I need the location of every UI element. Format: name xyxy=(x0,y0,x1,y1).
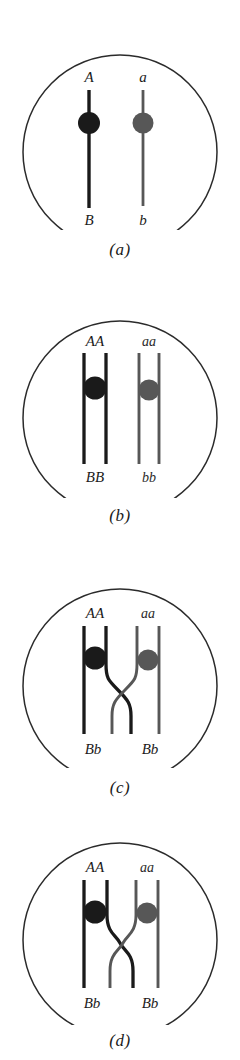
panel-caption-d: (d) xyxy=(0,1031,240,1051)
cell-membrane-a xyxy=(23,55,217,230)
allele-label-a-top: a xyxy=(139,69,147,85)
panel-b-cell: AA aa BB bb xyxy=(0,268,240,498)
allele-label-aa-top: aa xyxy=(142,334,156,349)
panel-d: AA aa Bb Bb (d) xyxy=(0,795,240,1060)
centromere-dark xyxy=(84,901,107,924)
allele-label-B-bottom: B xyxy=(84,212,93,228)
allele-label-AA-top: AA xyxy=(85,859,105,875)
allele-label-Bb-bottom-left: Bb xyxy=(84,995,101,1011)
panel-c: AA aa Bb Bb (c) xyxy=(0,538,240,803)
allele-label-Bb-bottom-right: Bb xyxy=(142,741,159,757)
allele-label-BB-bottom: BB xyxy=(86,469,104,485)
cell-membrane-b xyxy=(23,321,217,498)
panel-b: AA aa BB bb (b) xyxy=(0,268,240,533)
cell-membrane-d xyxy=(23,843,217,1025)
cell-membrane-c xyxy=(23,589,217,768)
panel-d-cell: AA aa Bb Bb xyxy=(0,795,240,1025)
allele-label-Bb-bottom-right: Bb xyxy=(142,995,159,1011)
allele-label-aa-top: aa xyxy=(140,860,154,875)
allele-label-Bb-bottom-left: Bb xyxy=(85,741,102,757)
centromere-gray xyxy=(133,113,154,134)
allele-label-b-bottom: b xyxy=(139,212,147,228)
panel-c-cell: AA aa Bb Bb xyxy=(0,538,240,768)
allele-label-bb-bottom: bb xyxy=(142,470,156,485)
panel-caption-b: (b) xyxy=(0,506,240,526)
allele-label-AA-top: AA xyxy=(85,333,105,349)
panel-a: A a B b (a) xyxy=(0,0,240,265)
allele-label-AA-top: AA xyxy=(85,605,105,621)
centromere-gray xyxy=(138,650,159,671)
centromere-dark xyxy=(84,647,107,670)
panel-caption-a: (a) xyxy=(0,240,240,260)
centromere-gray xyxy=(137,903,158,924)
allele-label-aa-top: aa xyxy=(141,606,155,621)
panel-a-cell: A a B b xyxy=(0,0,240,230)
centromere-dark xyxy=(84,377,107,400)
allele-label-A-top: A xyxy=(83,69,94,85)
centromere-gray xyxy=(139,380,160,401)
centromere-dark xyxy=(78,112,100,134)
